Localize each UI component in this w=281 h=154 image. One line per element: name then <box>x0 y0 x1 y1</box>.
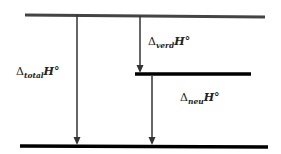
delta-symbol: Δ <box>180 91 188 104</box>
arrowhead-down-icon <box>149 137 156 145</box>
arrow-neu <box>149 76 156 145</box>
delta-symbol: Δ <box>16 65 24 78</box>
top-energy-level <box>25 15 265 17</box>
enthalpy-symbol: H° <box>44 65 60 78</box>
label-delta-total-h: ΔtotalH° <box>16 66 60 80</box>
subscript-total: total <box>24 71 44 80</box>
enthalpy-diagram: ΔtotalH° ΔverdH° ΔneuH° <box>0 0 281 154</box>
label-delta-neu-h: ΔneuH° <box>180 92 220 106</box>
label-delta-verd-h: ΔverdH° <box>148 36 190 50</box>
bottom-energy-level <box>20 146 268 147</box>
delta-symbol: Δ <box>148 35 156 48</box>
subscript-verd: verd <box>156 41 174 50</box>
arrow-total <box>74 15 81 145</box>
enthalpy-symbol: H° <box>174 35 190 48</box>
arrow-verd <box>137 16 144 73</box>
enthalpy-symbol: H° <box>204 91 220 104</box>
arrowhead-down-icon <box>74 137 81 145</box>
arrowhead-down-icon <box>137 65 144 73</box>
subscript-neu: neu <box>188 97 204 106</box>
